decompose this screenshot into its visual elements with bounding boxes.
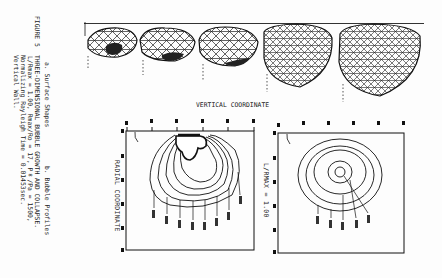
profile-plot-right [273,121,405,254]
surface-shape-3 [199,27,258,80]
figure-graphics [0,0,442,278]
radial-coordinate-label: RADIAL COORDINATE [113,160,121,232]
figure-page: a. Surface Shapes b. Bubble Profiles FIG… [0,0,442,278]
surface-shape-5 [339,24,420,102]
surface-shape-1 [85,22,137,70]
surface-shape-2 [140,28,195,75]
vertical-coordinate-label: VERTICAL COORDINATE [196,101,269,109]
profile-plot-left [121,119,255,252]
lrmax-annotation: L/RMAX = 1.00 [262,163,270,218]
surface-shape-4 [264,24,332,92]
